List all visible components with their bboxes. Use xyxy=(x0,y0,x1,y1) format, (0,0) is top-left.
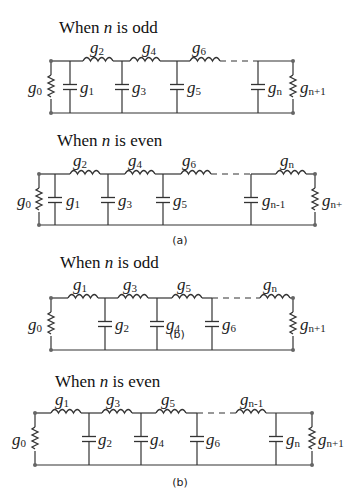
resistor-icon xyxy=(48,75,54,97)
svg-text:gn: gn xyxy=(263,275,278,294)
svg-text:g2: g2 xyxy=(90,38,104,57)
stray-caption: (b) xyxy=(169,328,185,341)
circuit-title: When n is odd xyxy=(60,253,159,272)
ladder-network-diagram: When n is odd g0 g1 g3 g5 gn gn+1 xyxy=(0,0,361,504)
circuit-b-even: When n is even g0 g2 g4 g6 gn gn+1 g1 g3… xyxy=(12,372,344,467)
svg-text:g1: g1 xyxy=(55,390,69,409)
circuit-a-even: When n is even g0 g1 g3 g5 gn-1 gn+ g2 g… xyxy=(17,131,342,227)
svg-text:gn+: gn+ xyxy=(322,191,342,210)
svg-text:gn: gn xyxy=(280,151,295,170)
svg-text:g6: g6 xyxy=(206,430,221,449)
svg-text:gn-1: gn-1 xyxy=(240,390,263,409)
svg-text:gn: gn xyxy=(286,430,301,449)
caption-a: (a) xyxy=(172,234,187,247)
svg-text:g2: g2 xyxy=(98,430,112,449)
svg-text:g0: g0 xyxy=(28,315,43,334)
svg-text:g0: g0 xyxy=(17,191,32,210)
svg-text:g5: g5 xyxy=(187,78,202,97)
circuit-b-odd: When n is odd g0 g2 g4 g6 gn+1 g1 g3 g5 … xyxy=(28,253,326,352)
svg-text:gn: gn xyxy=(268,78,283,97)
svg-text:g4: g4 xyxy=(128,151,143,170)
caption-b: (b) xyxy=(172,476,188,489)
svg-text:gn+1: gn+1 xyxy=(318,430,344,449)
inductor-icon xyxy=(190,58,220,62)
svg-text:g5: g5 xyxy=(161,390,176,409)
svg-text:g1: g1 xyxy=(73,275,87,294)
svg-text:gn-1: gn-1 xyxy=(262,191,285,210)
svg-text:g2: g2 xyxy=(73,151,87,170)
svg-text:g1: g1 xyxy=(66,191,80,210)
svg-text:g1: g1 xyxy=(80,78,94,97)
svg-text:g3: g3 xyxy=(132,78,147,97)
resistor-icon xyxy=(290,75,296,97)
svg-text:g6: g6 xyxy=(182,151,197,170)
svg-text:g3: g3 xyxy=(106,390,121,409)
svg-text:g6: g6 xyxy=(222,315,237,334)
svg-text:g6: g6 xyxy=(192,38,207,57)
circuit-title: When n is even xyxy=(55,372,161,391)
svg-text:g4: g4 xyxy=(142,38,157,57)
svg-text:g3: g3 xyxy=(123,275,138,294)
circuit-title: When n is odd xyxy=(59,18,158,37)
svg-text:g0: g0 xyxy=(12,430,27,449)
svg-text:g2: g2 xyxy=(115,315,129,334)
circuit-title: When n is even xyxy=(57,131,163,150)
inductor-icon xyxy=(130,58,160,62)
svg-text:g3: g3 xyxy=(118,191,133,210)
inductor-icon xyxy=(83,58,113,62)
svg-text:g4: g4 xyxy=(150,430,165,449)
svg-text:g5: g5 xyxy=(177,275,192,294)
circuit-a-odd: When n is odd g0 g1 g3 g5 gn gn+1 xyxy=(28,18,326,115)
svg-text:gn+1: gn+1 xyxy=(300,315,326,334)
svg-text:gn+1: gn+1 xyxy=(300,78,326,97)
svg-text:g0: g0 xyxy=(28,78,43,97)
svg-text:g5: g5 xyxy=(173,191,188,210)
